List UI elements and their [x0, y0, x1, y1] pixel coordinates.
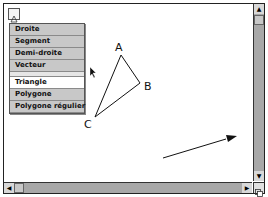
- arrow-down-icon: ▼: [257, 172, 262, 179]
- scroll-left-button[interactable]: ◀: [4, 183, 14, 193]
- triangle-abc[interactable]: [95, 55, 140, 117]
- point-label-a: A: [115, 41, 123, 54]
- menu-item-droite[interactable]: Droite: [10, 24, 84, 36]
- menu-item-polygone[interactable]: Polygone: [10, 89, 84, 101]
- tool-menu-button[interactable]: [8, 8, 20, 20]
- menu-item-vecteur[interactable]: Vecteur: [10, 60, 84, 72]
- menu-item-demi-droite[interactable]: Demi-droite: [10, 48, 84, 60]
- menu-item-polygone-regulier[interactable]: Polygone régulier: [10, 101, 84, 113]
- geometry-window: A B C Droite Segment Demi-droite Vecteur…: [3, 3, 265, 194]
- drawing-canvas[interactable]: A B C Droite Segment Demi-droite Vecteur…: [4, 4, 252, 181]
- arrow-left-icon: ◀: [7, 184, 12, 191]
- scroll-down-button[interactable]: ▼: [254, 171, 264, 181]
- vertical-scroll-thumb[interactable]: [254, 15, 264, 25]
- mouse-cursor-icon: [90, 67, 96, 78]
- arrow-up-icon: ▲: [257, 5, 262, 12]
- resize-grow-box[interactable]: [253, 182, 264, 193]
- vector-line[interactable]: [163, 139, 226, 158]
- vertical-scrollbar[interactable]: ▲ ▼: [253, 4, 264, 181]
- menu-item-segment[interactable]: Segment: [10, 36, 84, 48]
- arrow-right-icon: ▶: [245, 184, 250, 191]
- scroll-right-button[interactable]: ▶: [242, 183, 252, 193]
- line-tools-menu: Droite Segment Demi-droite Vecteur Trian…: [9, 23, 85, 114]
- point-label-c: C: [84, 118, 92, 131]
- scroll-up-button[interactable]: ▲: [254, 4, 264, 14]
- horizontal-scrollbar[interactable]: ◀ ▶: [4, 182, 252, 193]
- point-label-b: B: [144, 80, 152, 93]
- arrowhead-icon: [226, 135, 237, 142]
- horizontal-scroll-thumb[interactable]: [14, 183, 24, 193]
- resize-icon: [254, 188, 264, 197]
- menu-item-triangle[interactable]: Triangle: [10, 77, 84, 89]
